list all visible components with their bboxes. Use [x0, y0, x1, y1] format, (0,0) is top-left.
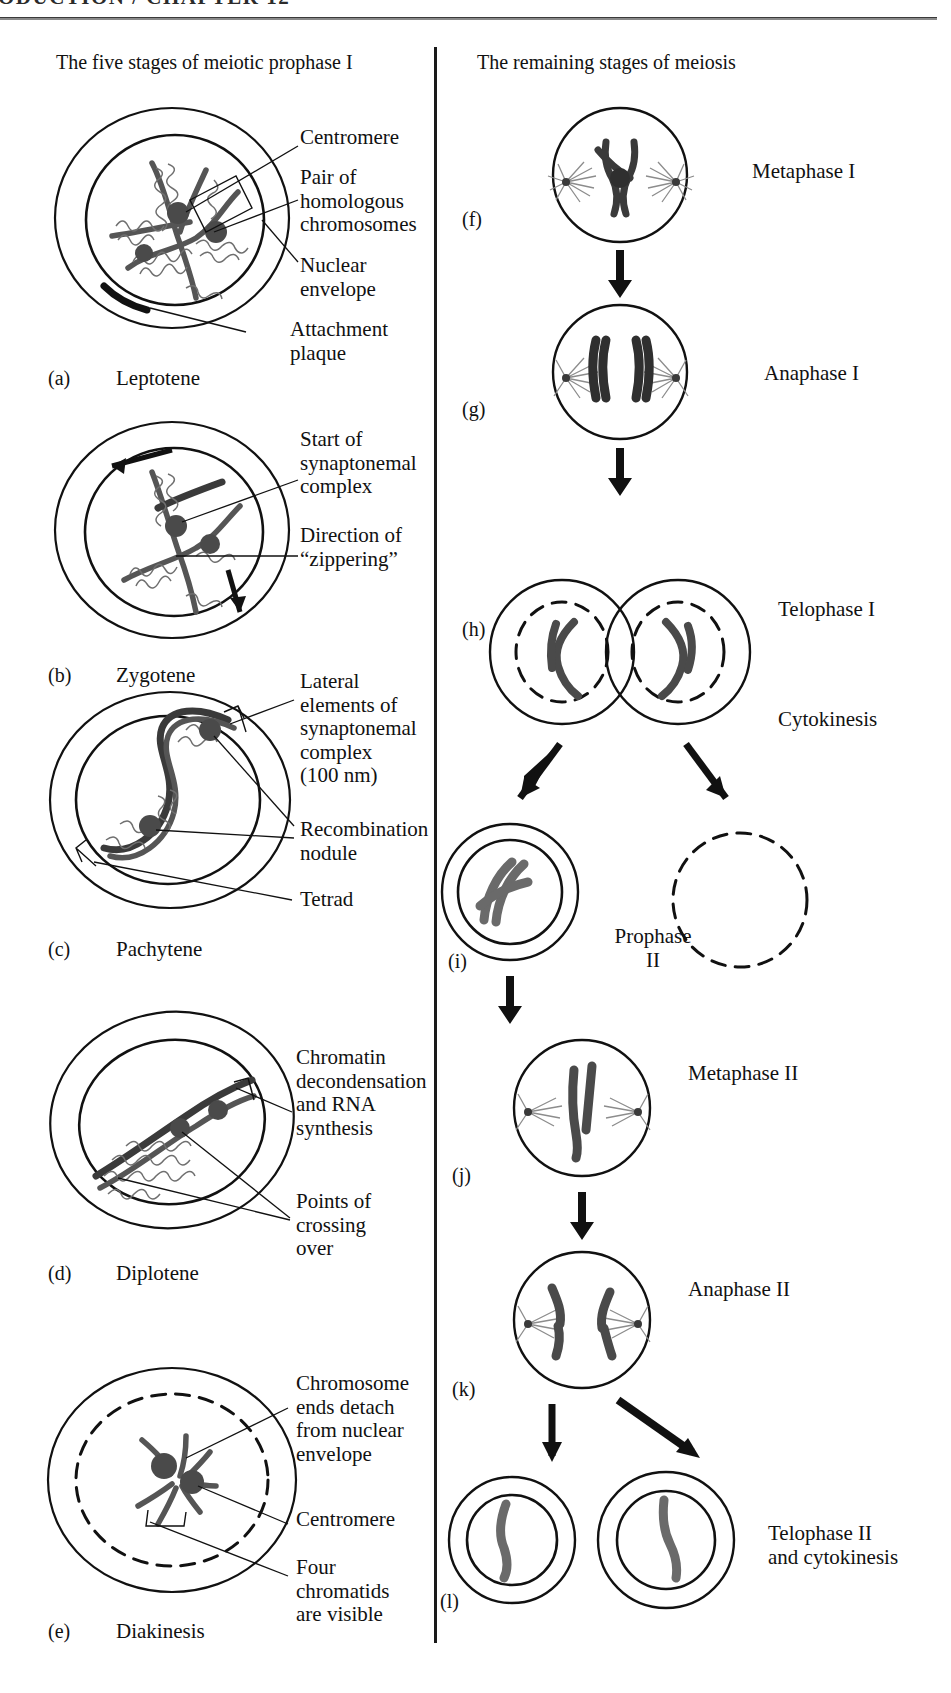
callout-centromere-a: Centromere — [300, 126, 399, 150]
panel-letter-e: (e) — [48, 1620, 70, 1643]
stage-label-metaphase-1: Metaphase I — [752, 160, 855, 184]
stage-label-telophase-1: Telophase I — [778, 598, 875, 622]
callout-zippering-direction: Direction of “zippering” — [300, 524, 402, 571]
panel-letter-b: (b) — [48, 664, 71, 687]
panel-letter-k: (k) — [452, 1378, 475, 1401]
callout-crossing-over-points: Points of crossing over — [296, 1190, 371, 1261]
callout-chromatin-decondensation: Chromatin decondensation and RNA synthes… — [296, 1046, 427, 1140]
stage-name-diakinesis: Diakinesis — [116, 1619, 205, 1644]
callout-nuclear-envelope: Nuclear envelope — [300, 254, 376, 301]
panel-letter-h: (h) — [462, 618, 485, 641]
stage-label-anaphase-2: Anaphase II — [688, 1278, 790, 1302]
cell-telophase-1 — [490, 580, 750, 798]
stage-name-zygotene: Zygotene — [116, 663, 195, 688]
panel-letter-c: (c) — [48, 938, 70, 961]
stage-label-prophase-2: Prophase II — [598, 925, 708, 972]
callout-chromosome-ends-detach: Chromosome ends detach from nuclear enve… — [296, 1372, 409, 1466]
cell-anaphase-1 — [553, 305, 688, 496]
stage-name-pachytene: Pachytene — [116, 937, 202, 962]
cell-prophase-2 — [442, 824, 578, 1024]
stage-label-cytokinesis: Cytokinesis — [778, 708, 877, 732]
panel-letter-j: (j) — [452, 1164, 471, 1187]
panel-letter-a: (a) — [48, 367, 70, 390]
panel-letter-f: (f) — [462, 208, 482, 231]
callout-synaptonemal-start: Start of synaptonemal complex — [300, 428, 417, 499]
stage-label-telophase-2: Telophase II and cytokinesis — [768, 1522, 898, 1569]
stage-label-metaphase-2: Metaphase II — [688, 1062, 798, 1086]
callout-attachment-plaque: Attachment plaque — [290, 318, 388, 365]
callout-tetrad: Tetrad — [300, 888, 353, 912]
panel-letter-i: (i) — [448, 950, 467, 973]
stage-label-anaphase-1: Anaphase I — [764, 362, 859, 386]
callout-centromere-e: Centromere — [296, 1508, 395, 1532]
stage-name-leptotene: Leptotene — [116, 366, 200, 391]
stage-name-diplotene: Diplotene — [116, 1261, 199, 1286]
right-column-artwork — [0, 0, 951, 1693]
callout-recombination-nodule: Recombination nodule — [300, 818, 428, 865]
cell-metaphase-1 — [548, 108, 694, 298]
panel-letter-g: (g) — [462, 398, 485, 421]
figure-page: ODUCTION / CHAPTER 12 The five stages of… — [0, 0, 951, 1693]
callout-four-chromatids: Four chromatids are visible — [296, 1556, 389, 1627]
cell-telophase-2 — [449, 1472, 734, 1608]
cell-metaphase-2 — [514, 1040, 650, 1240]
callout-lateral-elements: Lateral elements of synaptonemal complex… — [300, 670, 417, 788]
cell-anaphase-2 — [514, 1252, 700, 1462]
callout-homologous-pair: Pair of homologous chromosomes — [300, 166, 417, 237]
panel-letter-l: (l) — [440, 1590, 459, 1613]
panel-letter-d: (d) — [48, 1262, 71, 1285]
